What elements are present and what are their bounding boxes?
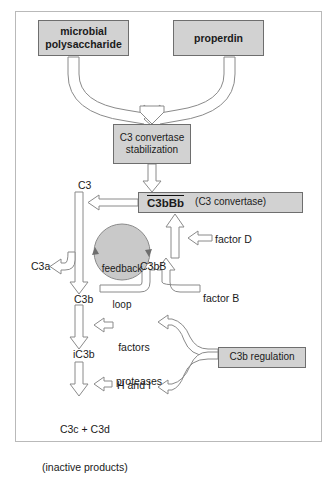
box-c3b-regulation: C3b regulation [218,347,306,368]
label-c3b: C3b [74,293,93,306]
label-factors-h-and-i: factors H and I [117,316,151,404]
label-products-line1: C3c + C3d [42,423,128,436]
label-ic3b: iC3b [73,348,95,361]
box-properdin-label: properdin [194,32,243,45]
label-factor-b: factor B [203,292,239,305]
box-properdin: properdin [173,20,264,56]
arrow-properdin-to-merge [144,57,235,133]
arrow-regulation-to-proteases [158,352,218,394]
arrow-c3-to-c3a [50,252,75,274]
box-microbial-polysaccharide: microbial polysaccharide [38,20,129,56]
label-feedback-loop: feedback loop [92,239,152,323]
label-c3: C3 [78,179,91,192]
arrow-ic3b-to-products [70,362,88,396]
label-inactive-products: C3c + C3d (inactive products) [42,398,128,477]
arrow-microbial-to-merge [68,57,160,133]
arrow-regulation-to-factors [158,315,218,356]
box-microbial-label: microbial polysaccharide [45,25,121,51]
label-c3a: C3a [31,260,50,273]
arrow-factord [188,231,212,245]
label-factor-d: factor D [215,233,252,246]
c3bbb-name-label: C3bBb [147,195,184,209]
arrow-c3bB-to-c3bbb [166,214,184,258]
box-c3bbb-convertase: C3bBb (C3 convertase) [138,192,303,213]
label-feedback-line2: loop [92,299,152,311]
label-feedback-line1: feedback [92,263,152,275]
c3bbb-alias-label: (C3 convertase) [195,196,266,208]
arrow-proteases [94,377,112,391]
box-c3-convertase-stabilization: C3 convertase stabilization [113,124,191,164]
box-regulation-label: C3b regulation [229,351,294,363]
arrow-c3-to-c3b [70,192,88,294]
arrow-c3bbb-to-c3 [88,195,138,210]
label-products-line2: (inactive products) [42,461,128,474]
label-factors-line2: H and I [117,379,151,392]
label-factors-line1: factors [117,341,151,354]
box-stabilization-label: C3 convertase stabilization [120,132,184,156]
arrow-stabilization-to-c3bbb [143,164,161,192]
arrow-c3b-to-ic3b [70,305,88,349]
